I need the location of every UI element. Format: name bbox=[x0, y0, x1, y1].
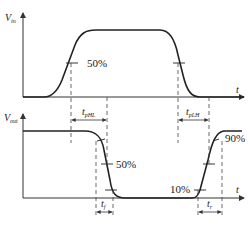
timing-diagram: 50% Vin t 50% 10% 90% Vout t tpHL tpLH bbox=[0, 0, 252, 226]
tr-label: tr bbox=[207, 198, 213, 210]
vin-50pct-label: 50% bbox=[87, 57, 107, 69]
vin-y-label: Vin bbox=[5, 12, 16, 24]
tplh-label: tpLH bbox=[186, 106, 200, 118]
vout-x-label: t bbox=[236, 184, 239, 195]
interval-annotations: tpHL tpLH tf tr bbox=[72, 106, 221, 212]
tf-label: tf bbox=[101, 198, 107, 210]
tphl-label: tpHL bbox=[82, 106, 96, 118]
vout-50pct-label: 50% bbox=[116, 158, 136, 170]
vin-waveform bbox=[23, 30, 244, 97]
vout-90pct-label: 90% bbox=[225, 132, 245, 144]
vout-10pct-label: 10% bbox=[170, 183, 190, 195]
input-plot: 50% Vin t bbox=[5, 12, 244, 97]
vin-x-label: t bbox=[236, 84, 239, 95]
vout-y-label: Vout bbox=[4, 112, 18, 124]
